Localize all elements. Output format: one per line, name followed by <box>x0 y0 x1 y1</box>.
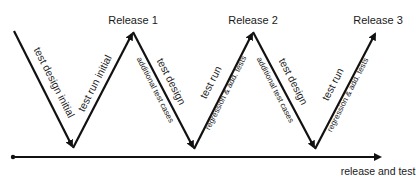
segment-label-1: test design initial <box>32 45 78 120</box>
timeline-label: release and test <box>341 165 416 177</box>
segment-arrow-3 <box>133 32 193 147</box>
segment-arrow-2 <box>73 34 132 148</box>
release-test-cycle-diagram: Release 1 Release 2 Release 3 test desig… <box>0 0 416 182</box>
release-label-2: Release 2 <box>228 14 278 26</box>
release-label-3: Release 3 <box>353 14 403 26</box>
release-label-1: Release 1 <box>108 14 158 26</box>
